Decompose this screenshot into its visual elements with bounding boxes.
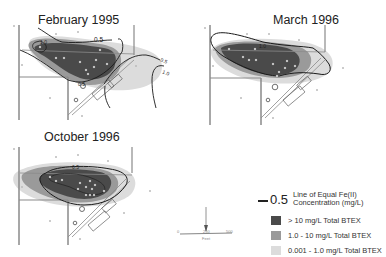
map-panel-feb-1995: February 1995 xyxy=(0,0,193,128)
contour-label: 0.5 xyxy=(72,164,79,170)
contour-label: 1.0 xyxy=(259,43,266,49)
contour-label: 0.5 xyxy=(78,81,85,87)
contour-line-icon xyxy=(258,200,268,202)
scale-start: 0 xyxy=(177,229,179,234)
scale-unit: Feet xyxy=(202,236,210,241)
swatch-low-icon xyxy=(271,246,281,255)
plume-map: 1.0 xyxy=(193,0,386,128)
scale-bar: 0 250 500 Feet xyxy=(176,205,236,245)
map-panel-oct-1996: October 1996 0.5 xyxy=(0,125,193,257)
legend-line-desc-2: Concentration (mg/L) xyxy=(293,199,363,207)
legend-item-label: 0.001 - 1.0 mg/L Total BTEX xyxy=(288,246,382,255)
contour-label: 1.0 xyxy=(162,69,171,77)
scale-end: 500 xyxy=(226,229,233,234)
legend-item-label: > 10 mg/L Total BTEX xyxy=(288,216,361,225)
legend-item-low: 0.001 - 1.0 mg/L Total BTEX xyxy=(271,246,386,256)
map-panel-mar-1996: March 1996 1.0 xyxy=(193,0,386,128)
swatch-high-icon xyxy=(271,216,281,225)
legend-line-description: Line of Equal Fe(II) Concentration (mg/L… xyxy=(293,191,363,207)
contour-label: 0.5 xyxy=(94,36,103,43)
legend-item-high: > 10 mg/L Total BTEX xyxy=(271,216,386,226)
plume-map: 0.5 xyxy=(0,125,193,257)
legend-line-value: 0.5 xyxy=(270,192,288,207)
scale-mid: 250 xyxy=(203,229,210,234)
legend-item-mid: 1.0 - 10 mg/L Total BTEX xyxy=(271,231,386,241)
legend-contour-line: 0.5 Line of Equal Fe(II) Concentration (… xyxy=(256,191,386,213)
plume-map: 0.5 1.0 0.5 0.5 1.0 xyxy=(0,0,193,128)
contour-label: 1.0 xyxy=(40,39,47,45)
legend-item-label: 1.0 - 10 mg/L Total BTEX xyxy=(288,231,371,240)
swatch-mid-icon xyxy=(271,231,281,240)
